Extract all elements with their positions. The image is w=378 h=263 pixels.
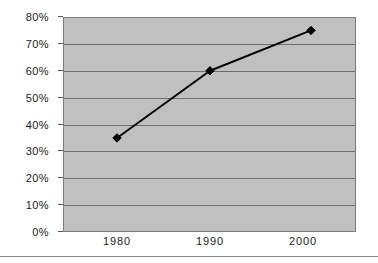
x-tick-label: 1990 (196, 235, 224, 247)
y-axis: 0%10%20%30%40%50%60%70%80% (0, 0, 57, 263)
y-tick-mark (58, 16, 63, 17)
gridline-40 (64, 125, 355, 126)
y-tick-mark (58, 177, 63, 178)
y-tick-label: 30% (0, 145, 49, 157)
y-tick-label: 20% (0, 172, 49, 184)
y-tick-label: 80% (0, 11, 49, 23)
x-tick-label: 1980 (103, 235, 131, 247)
gridline-50 (64, 98, 355, 99)
y-tick-mark (58, 124, 63, 125)
y-tick-mark (58, 70, 63, 71)
line-chart-figure: 0%10%20%30%40%50%60%70%80% 198019902000 (0, 0, 378, 263)
gridline-70 (64, 44, 355, 45)
bottom-separator-rule (0, 256, 378, 257)
x-axis: 198019902000 (0, 235, 378, 251)
y-tick-label: 10% (0, 199, 49, 211)
y-tick-mark (58, 97, 63, 98)
y-tick-label: 60% (0, 65, 49, 77)
y-tick-mark (58, 204, 63, 205)
y-tick-mark (58, 43, 63, 44)
y-tick-label: 40% (0, 119, 49, 131)
plot-area (63, 17, 356, 232)
x-tick-label: 2000 (289, 235, 317, 247)
y-tick-mark (58, 150, 63, 151)
gridline-10 (64, 205, 355, 206)
y-tick-label: 70% (0, 38, 49, 50)
y-tick-label: 50% (0, 92, 49, 104)
gridline-30 (64, 151, 355, 152)
gridline-20 (64, 178, 355, 179)
gridline-60 (64, 71, 355, 72)
y-tick-mark (58, 231, 63, 232)
